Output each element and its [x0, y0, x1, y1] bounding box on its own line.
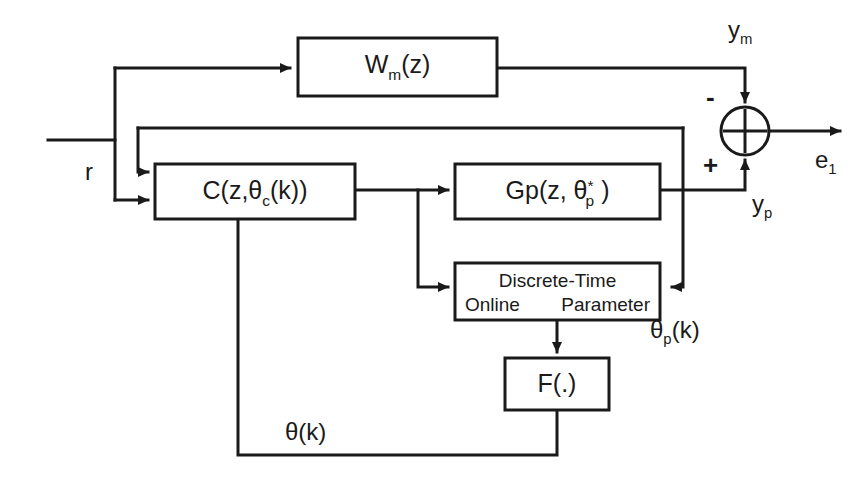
estimator-label-online: Online — [465, 295, 520, 314]
signal-label-reference: r — [85, 160, 93, 184]
plant-output-base: y — [752, 190, 764, 217]
error-sub: 1 — [828, 161, 836, 177]
reference-model-label: Wm(z) — [298, 52, 497, 82]
controller-label-main: C(z, — [203, 176, 249, 204]
signal-label-model-output: ym — [728, 18, 752, 47]
error-base: e — [815, 146, 828, 173]
signal-label-error: e1 — [815, 148, 837, 177]
block-diagram-canvas: Wm(z) C(z,θc(k)) Gp(z, θ*p ) Discrete-Ti… — [0, 0, 863, 497]
wire-control-signal-to-estimator — [418, 190, 448, 287]
signal-label-plant-parameters: θp(k) — [650, 318, 700, 347]
wire-feedback-to-controller-upper — [138, 128, 148, 172]
controller-label-tail: (k)) — [270, 176, 307, 204]
reference-model-label-tail: (z) — [401, 50, 430, 78]
controller-parameters-base: θ — [285, 418, 298, 445]
controller-label: C(z,θc(k)) — [155, 178, 355, 208]
signal-label-controller-parameters: θ(k) — [285, 420, 326, 444]
signal-label-plant-output: yp — [752, 192, 772, 221]
model-output-sub: m — [740, 31, 752, 47]
reference-model-label-main: W — [365, 50, 389, 78]
plant-label-tail: ) — [594, 176, 609, 204]
estimator-label-line2: Online Parameter — [455, 295, 660, 314]
controller-parameters-tail: (k) — [298, 418, 326, 445]
controller-label-sub: c — [262, 192, 270, 209]
summing-junction-minus-sign: - — [706, 84, 715, 110]
mapping-label: F(.) — [505, 371, 609, 396]
plant-label-main: Gp(z, — [506, 176, 574, 204]
plant-label: Gp(z, θ*p ) — [455, 178, 660, 208]
estimator-label-parameter: Parameter — [561, 295, 650, 314]
controller-label-theta: θ — [248, 176, 262, 204]
model-output-base: y — [728, 16, 740, 43]
plant-parameters-tail: (k) — [672, 316, 700, 343]
reference-model-label-sub: m — [388, 66, 401, 83]
wire-plant-output-to-estimator — [672, 128, 683, 287]
plant-label-sub: p — [586, 192, 595, 209]
plant-output-sub: p — [764, 205, 772, 221]
plant-parameters-sub: p — [663, 331, 671, 347]
estimator-label-line1: Discrete-Time — [455, 271, 660, 290]
estimator-label: Discrete-Time Online Parameter — [455, 265, 660, 320]
summing-junction-plus-sign: + — [703, 152, 718, 178]
plant-parameters-base: θ — [650, 316, 663, 343]
